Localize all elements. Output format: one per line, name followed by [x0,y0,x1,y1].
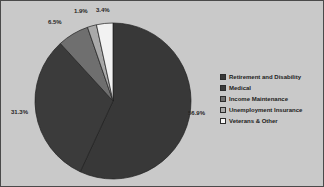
legend-item-income-maintenance[interactable]: Income Maintenance [220,93,324,104]
legend-item-label: Veterans & Other [229,117,278,125]
slice-value-label-medical: 31.3% [11,108,28,116]
chart-frame: 56.9% 31.3% 6.5% 1.9% 3.4% Retirement an… [0,0,324,187]
legend-item-label: Unemployment Insurance [229,106,302,114]
chart-legend: Retirement and Disability Medical Income… [220,71,324,126]
legend-item-label: Income Maintenance [229,95,288,103]
legend-item-unemployment-insurance[interactable]: Unemployment Insurance [220,104,324,115]
legend-item-medical[interactable]: Medical [220,82,324,93]
pie-slice-group [35,23,191,179]
legend-swatch-icon [220,85,226,91]
legend-item-veterans-and-other[interactable]: Veterans & Other [220,115,324,126]
legend-swatch-icon [220,74,226,80]
slice-value-label-retirement-and-disability: 56.9% [188,109,205,117]
legend-item-label: Medical [229,84,251,92]
legend-item-retirement-and-disability[interactable]: Retirement and Disability [220,71,324,82]
slice-value-label-unemployment-insurance: 1.9% [74,7,88,15]
slice-value-label-income-maintenance: 6.5% [48,18,62,26]
slice-value-label-veterans-and-other: 3.4% [96,6,110,14]
legend-item-label: Retirement and Disability [229,73,301,81]
legend-swatch-icon [220,96,226,102]
legend-swatch-icon [220,107,226,113]
legend-swatch-icon [220,118,226,124]
